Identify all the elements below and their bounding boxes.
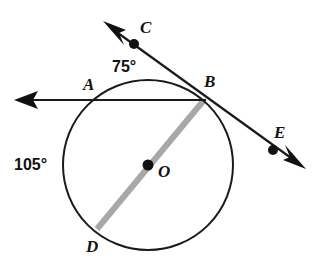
secant-ce-line — [111, 28, 298, 163]
arc-measure-top: 75° — [112, 59, 136, 75]
geometry-canvas — [0, 0, 316, 265]
arrowhead-c-icon — [103, 21, 126, 45]
point-dot-o — [143, 160, 154, 171]
point-label-c: C — [140, 19, 151, 36]
point-label-o: O — [158, 163, 170, 180]
point-label-d: D — [86, 238, 98, 255]
point-dot-e — [268, 145, 278, 155]
point-label-e: E — [274, 124, 285, 141]
geometry-figure: C A B E O D 75° 105° — [0, 0, 316, 265]
point-label-b: B — [204, 73, 215, 90]
arc-measure-left: 105° — [14, 157, 47, 173]
point-dot-c — [129, 39, 139, 49]
arrowhead-e-icon — [283, 145, 306, 169]
point-label-a: A — [83, 76, 94, 93]
